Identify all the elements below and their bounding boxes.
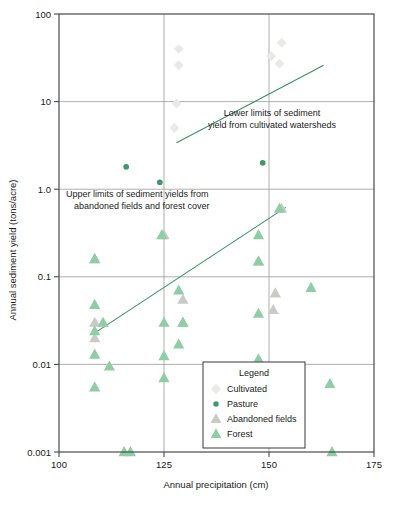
x-tick-label: 100 <box>51 459 67 470</box>
chart-figure: 100101.00.10.010.001100125150175 Lower l… <box>0 0 398 506</box>
y-tick-label: 1.0 <box>38 184 51 195</box>
data-point-pasture <box>260 160 266 166</box>
x-tick-label: 125 <box>156 459 172 470</box>
x-tick-label: 150 <box>261 459 277 470</box>
y-tick-label: 0.01 <box>33 359 52 370</box>
x-tick-label: 175 <box>366 459 382 470</box>
scatter-chart: 100101.00.10.010.001100125150175 Lower l… <box>0 0 398 506</box>
data-point-pasture <box>123 164 129 170</box>
y-tick-label: 0.1 <box>38 271 51 282</box>
y-tick-label: 100 <box>35 9 51 20</box>
legend-box[interactable]: LegendCultivatedPastureAbandoned fieldsF… <box>203 362 305 448</box>
data-point-pasture <box>157 179 163 185</box>
upper-trend-annotation-line2: yield from cultivated watersheds <box>208 120 337 130</box>
x-axis-title: Annual precipitation (cm) <box>163 479 268 490</box>
legend-title: Legend <box>239 368 269 378</box>
legend-label: Forest <box>227 429 253 439</box>
chart-background <box>0 0 398 506</box>
y-tick-label: 0.001 <box>27 447 51 458</box>
lower-trend-annotation-line1: Upper limits of sediment yields from <box>66 189 209 199</box>
upper-trend-annotation-line1: Lower limits of sediment <box>224 108 321 118</box>
lower-trend-annotation-line2: abandoned fields and forest cover <box>74 201 210 211</box>
legend-marker-pasture <box>213 401 218 406</box>
y-axis-title: Annual sediment yield (tons/acre) <box>7 180 18 321</box>
legend-label: Pasture <box>227 399 258 409</box>
legend-label: Cultivated <box>227 384 267 394</box>
legend-label: Abandoned fields <box>227 414 297 424</box>
y-tick-label: 10 <box>40 96 51 107</box>
